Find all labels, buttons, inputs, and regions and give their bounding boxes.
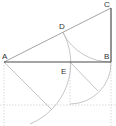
point-labels: A B C D E: [2, 0, 110, 76]
triangle: [4, 8, 111, 62]
segment-ac: [4, 8, 111, 62]
geometry-diagram: A B C D E: [0, 0, 116, 126]
label-c: C: [104, 0, 110, 9]
label-e: E: [61, 67, 66, 76]
diagonal-from-a: [4, 62, 51, 109]
construction-guides: [0, 62, 116, 126]
label-d: D: [59, 22, 65, 31]
label-b: B: [104, 52, 109, 61]
diagonal-from-e: [70, 62, 98, 91]
construction-arcs: [30, 32, 111, 124]
label-a: A: [2, 52, 8, 61]
